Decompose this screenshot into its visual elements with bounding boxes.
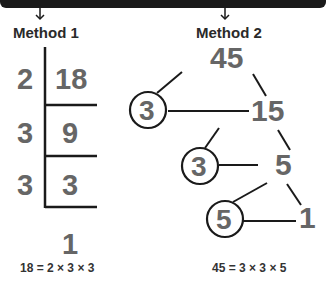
arrow-down-icon	[36, 8, 229, 19]
diagram-lines	[0, 0, 326, 288]
divisor: 3	[17, 169, 33, 202]
tree-node-root: 45	[210, 41, 243, 75]
tree-node: 5	[275, 148, 292, 182]
circled-prime: 3	[139, 95, 155, 127]
divisor: 3	[17, 117, 33, 150]
dividend: 3	[62, 169, 78, 202]
method2-heading: Method 2	[196, 24, 262, 41]
circled-prime: 5	[216, 204, 232, 236]
method1-equation: 18 = 2 × 3 × 3	[20, 261, 94, 275]
dividend: 9	[62, 117, 78, 150]
tree-node: 1	[299, 201, 316, 235]
circled-prime: 3	[191, 151, 207, 183]
tree-node: 15	[251, 94, 284, 128]
divisor: 2	[17, 63, 33, 96]
dividend: 18	[55, 63, 87, 96]
method1-heading: Method 1	[13, 24, 79, 41]
method2-equation: 45 = 3 × 3 × 5	[212, 261, 286, 275]
remainder: 1	[62, 228, 78, 261]
